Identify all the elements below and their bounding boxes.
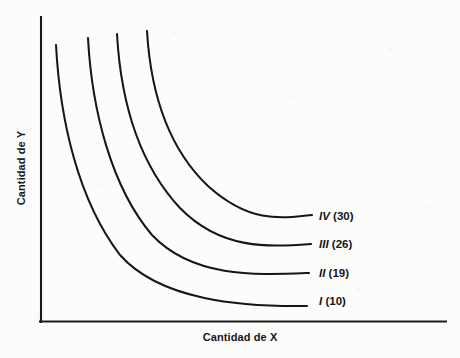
curve-label-II: II (19)	[319, 267, 349, 279]
curve-label-I: I (10)	[319, 295, 346, 307]
y-axis-title: Cantidad de Y	[15, 130, 27, 205]
curve-label-II-value: (19)	[329, 267, 350, 279]
curve-label-IV: IV (30)	[319, 210, 354, 222]
curve-label-III: III (26)	[319, 238, 352, 250]
curve-label-III-value: (26)	[332, 238, 353, 250]
x-axis-title: Cantidad de X	[203, 331, 278, 343]
curve-III	[117, 34, 311, 246]
indifference-curve-chart: IV (30) III (26) II (19) I (10) Cantidad…	[0, 0, 460, 358]
curve-I	[56, 45, 307, 306]
curve-IV	[147, 31, 312, 217]
curve-label-I-value: (10)	[325, 295, 346, 307]
curve-label-IV-value: (30)	[333, 210, 354, 222]
